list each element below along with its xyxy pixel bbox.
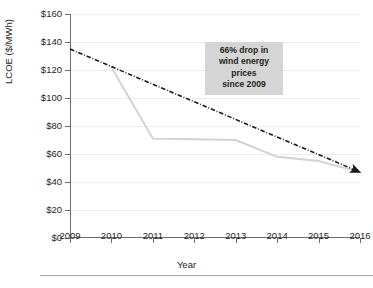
x-tick-label: 2015	[296, 230, 342, 241]
x-tick-label: 2013	[213, 230, 259, 241]
chart-figure: $0$20$40$60$80$100$120$140$160 200920102…	[0, 0, 373, 288]
x-tick-label: 2012	[171, 230, 217, 241]
x-tick-label: 2010	[88, 230, 134, 241]
y-tick-label: $20	[16, 205, 62, 215]
y-tick-label: $140	[16, 37, 62, 47]
annotation-line-4: since 2009	[207, 79, 281, 90]
annotation-callout: 66% drop in wind energy prices since 200…	[205, 42, 283, 95]
x-axis-title: Year	[0, 259, 373, 270]
y-tick-label: $160	[16, 9, 62, 19]
y-tick-label: $60	[16, 149, 62, 159]
annotation-line-3: prices	[207, 68, 281, 79]
x-tick-label: 2014	[254, 230, 300, 241]
annotation-line-1: 66% drop in	[207, 45, 281, 56]
y-tick-label: $120	[16, 65, 62, 75]
y-tick-label: $80	[16, 121, 62, 131]
y-tick-label: $100	[16, 93, 62, 103]
x-tick-label: 2009	[47, 230, 93, 241]
annotation-line-2: wind energy	[207, 56, 281, 67]
x-tick-label: 2016	[337, 230, 373, 241]
x-tick-label: 2011	[130, 230, 176, 241]
y-axis-title: LCOE ($/MWh)	[2, 70, 15, 84]
caption-divider	[40, 275, 373, 276]
y-tick-label: $40	[16, 177, 62, 187]
figure-caption	[40, 279, 373, 288]
